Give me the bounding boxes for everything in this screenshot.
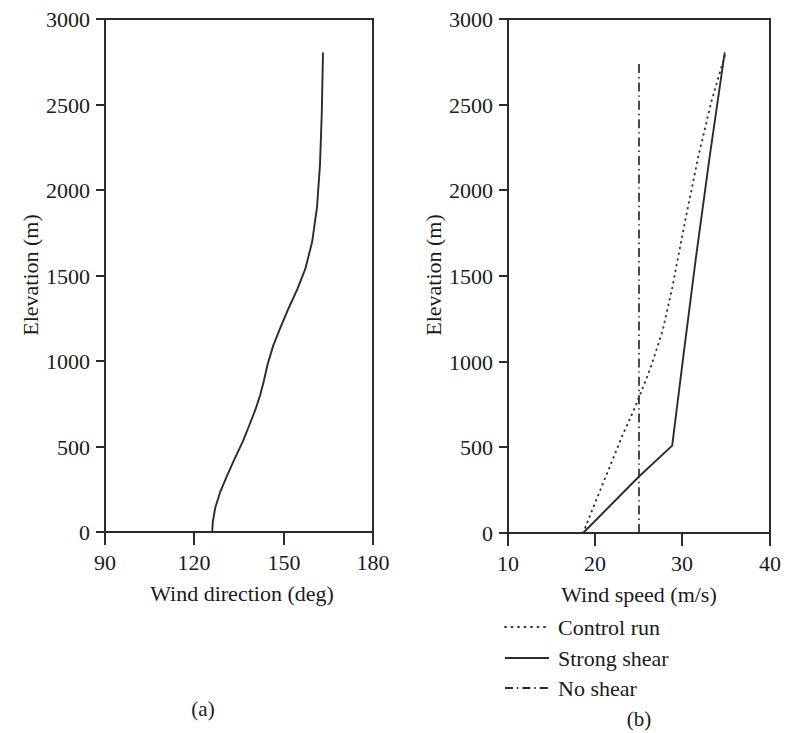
panel-a-ytick-0: 0 bbox=[79, 520, 90, 545]
panel-b-ytick-3000: 3000 bbox=[449, 7, 493, 32]
panel-a-ytick-3000: 3000 bbox=[46, 7, 90, 32]
panel-a-x-ticks bbox=[105, 532, 373, 545]
panel-b-ytick-1500: 1500 bbox=[449, 264, 493, 289]
panel-b-xtick-40: 40 bbox=[759, 551, 781, 576]
panel-a-xtick-180: 180 bbox=[357, 550, 390, 575]
panel-b-ytick-1000: 1000 bbox=[449, 350, 493, 375]
panel-a-xtick-150: 150 bbox=[268, 550, 301, 575]
panel-b-xtick-20: 20 bbox=[584, 551, 606, 576]
panel-a-ytick-1000: 1000 bbox=[46, 349, 90, 374]
panel-b-y-ticks bbox=[499, 19, 508, 533]
panel-b-ylabel: Elevation (m) bbox=[421, 214, 446, 336]
panel-a-frame bbox=[105, 19, 373, 532]
panel-a-ylabel: Elevation (m) bbox=[18, 214, 43, 336]
panel-b-strong-shear-curve bbox=[583, 53, 724, 533]
panel-a: 0 500 1000 1500 2000 2500 3000 90 120 15… bbox=[0, 0, 400, 733]
panel-a-ytick-1500: 1500 bbox=[46, 264, 90, 289]
panel-b-ytick-2500: 2500 bbox=[449, 93, 493, 118]
panel-b-xtick-10: 10 bbox=[497, 551, 519, 576]
panel-b-xtick-30: 30 bbox=[671, 551, 693, 576]
panel-a-ytick-2000: 2000 bbox=[46, 178, 90, 203]
panel-b: 0 500 1000 1500 2000 2500 3000 10 20 30 … bbox=[400, 0, 792, 733]
panel-b-ytick-0: 0 bbox=[482, 521, 493, 546]
legend-label-control-run: Control run bbox=[558, 615, 660, 640]
panel-b-ytick-500: 500 bbox=[460, 435, 493, 460]
panel-a-ytick-2500: 2500 bbox=[46, 93, 90, 118]
legend: Control run Strong shear No shear bbox=[505, 615, 669, 701]
panel-a-ytick-500: 500 bbox=[57, 435, 90, 460]
panel-a-y-ticks bbox=[96, 19, 105, 532]
panel-a-xtick-90: 90 bbox=[94, 550, 116, 575]
panel-a-xlabel: Wind direction (deg) bbox=[150, 581, 334, 606]
panel-a-wind-direction-curve bbox=[212, 53, 323, 532]
panel-a-tag: (a) bbox=[191, 697, 214, 721]
panel-b-xlabel: Wind speed (m/s) bbox=[561, 582, 717, 607]
panel-b-ytick-2000: 2000 bbox=[449, 178, 493, 203]
legend-label-no-shear: No shear bbox=[558, 676, 637, 701]
panel-a-xtick-120: 120 bbox=[178, 550, 211, 575]
panel-b-x-ticks bbox=[508, 533, 770, 546]
panel-b-tag: (b) bbox=[627, 707, 652, 731]
figure-wind-profiles: 0 500 1000 1500 2000 2500 3000 90 120 15… bbox=[0, 0, 792, 733]
legend-label-strong-shear: Strong shear bbox=[558, 646, 669, 671]
